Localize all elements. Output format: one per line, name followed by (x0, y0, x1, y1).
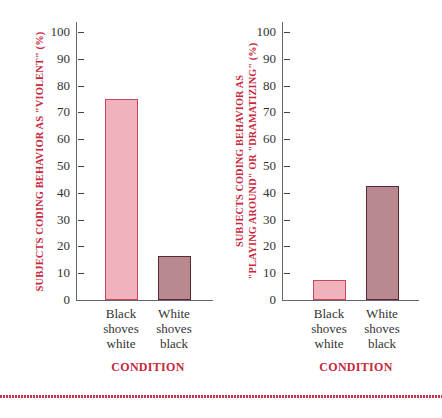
category-line: white (299, 336, 359, 351)
category-line: White (352, 306, 412, 321)
bar-black-shoves-white (105, 99, 138, 300)
category-line: white (91, 336, 151, 351)
y-tick-label: 30 (42, 213, 70, 227)
y-tick-mark (284, 273, 290, 274)
y-tick-label: 10 (42, 266, 70, 280)
y-tick-mark (78, 86, 84, 87)
y-tick-label: 70 (248, 105, 276, 119)
y-tick-mark (78, 139, 84, 140)
category-line: shoves (91, 321, 151, 336)
y-tick-label: 10 (248, 266, 276, 280)
x-category-white-shoves-black: White shoves black (144, 306, 204, 351)
y-tick-label: 100 (42, 25, 70, 39)
y-tick-mark (284, 86, 290, 87)
y-tick-mark (284, 166, 290, 167)
y-tick-mark (284, 220, 290, 221)
chart-violent: SUBJECTS CODING BEHAVIOR AS "VIOLENT" (%… (0, 0, 221, 380)
y-tick-label: 80 (42, 79, 70, 93)
y-tick-label: 20 (42, 239, 70, 253)
y-tick-mark (284, 59, 290, 60)
x-category-black-shoves-white: Black shoves white (299, 306, 359, 351)
category-line: black (352, 336, 412, 351)
y-tick-mark (78, 166, 84, 167)
y-tick-label: 50 (42, 159, 70, 173)
x-category-white-shoves-black: White shoves black (352, 306, 412, 351)
bar-black-shoves-white (313, 280, 346, 300)
y-tick-label: 60 (248, 132, 276, 146)
y-tick-mark (284, 139, 290, 140)
x-axis (76, 300, 213, 301)
category-line: White (144, 306, 204, 321)
dotted-divider (0, 395, 442, 398)
x-axis-title: CONDITION (296, 360, 416, 375)
category-line: black (144, 336, 204, 351)
y-tick-mark (284, 193, 290, 194)
y-tick-mark (78, 32, 84, 33)
y-axis (76, 22, 77, 301)
y-tick-mark (284, 112, 290, 113)
y-tick-label: 30 (248, 213, 276, 227)
y-tick-mark (284, 246, 290, 247)
y-tick-label: 90 (248, 52, 276, 66)
y-tick-label: 80 (248, 79, 276, 93)
bar-white-shoves-black (158, 256, 191, 300)
category-line: Black (91, 306, 151, 321)
y-axis (282, 22, 283, 301)
y-tick-mark (284, 32, 290, 33)
y-tick-label: 0 (248, 293, 276, 307)
y-tick-mark (78, 273, 84, 274)
category-line: shoves (144, 321, 204, 336)
y-tick-mark (78, 193, 84, 194)
y-axis-label-line-1: SUBJECTS CODING BEHAVIOR AS (233, 21, 246, 301)
category-line: Black (299, 306, 359, 321)
y-tick-label: 50 (248, 159, 276, 173)
y-tick-mark (78, 220, 84, 221)
category-line: shoves (299, 321, 359, 336)
y-tick-label: 20 (248, 239, 276, 253)
x-axis (282, 300, 419, 301)
y-tick-label: 90 (42, 52, 70, 66)
y-tick-label: 40 (248, 186, 276, 200)
chart-playing-around: SUBJECTS CODING BEHAVIOR AS "PLAYING ARO… (221, 0, 442, 380)
y-tick-mark (78, 59, 84, 60)
y-tick-label: 60 (42, 132, 70, 146)
x-category-black-shoves-white: Black shoves white (91, 306, 151, 351)
y-tick-label: 70 (42, 105, 70, 119)
y-tick-mark (78, 112, 84, 113)
y-tick-label: 40 (42, 186, 70, 200)
x-axis-title: CONDITION (88, 360, 208, 375)
y-tick-mark (78, 246, 84, 247)
y-tick-label: 100 (248, 25, 276, 39)
y-tick-label: 0 (42, 293, 70, 307)
category-line: shoves (352, 321, 412, 336)
bar-white-shoves-black (366, 186, 399, 300)
